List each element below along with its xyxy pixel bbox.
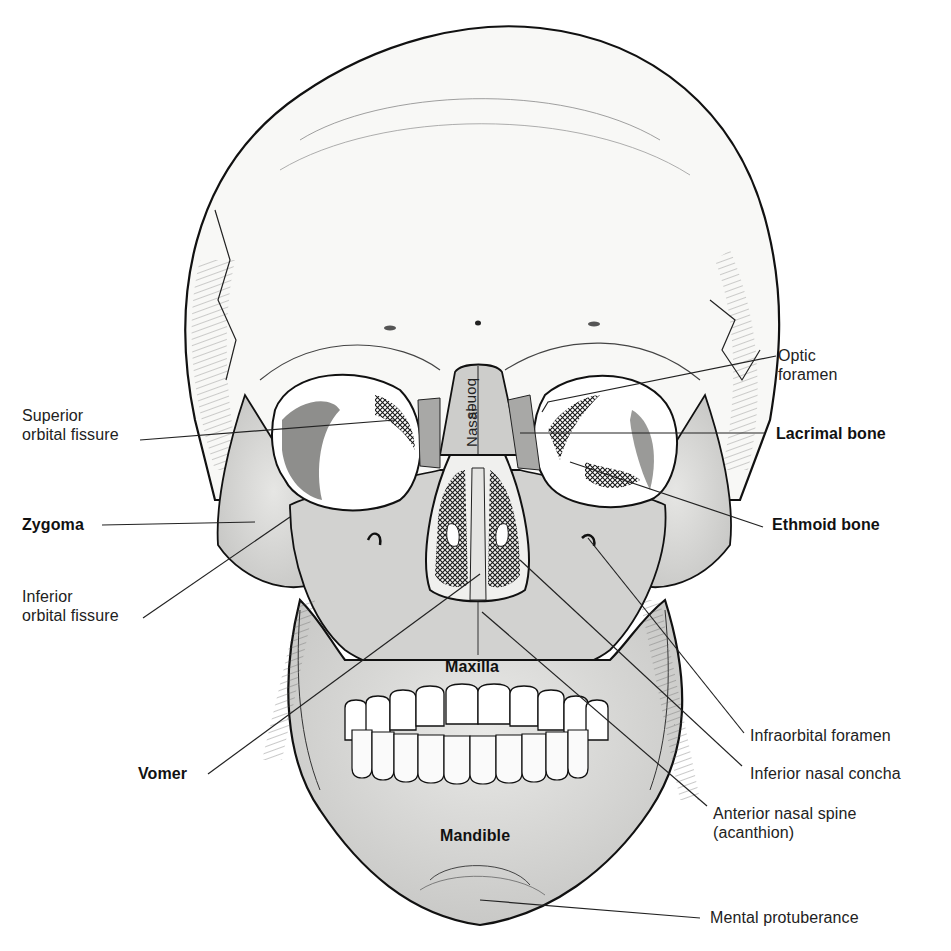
label-maxilla: Maxilla (445, 657, 499, 676)
label-anterior-nasal-spine: Anterior nasal spine (acanthion) (713, 804, 856, 842)
label-bones: bones (464, 378, 483, 419)
label-optic-foramen: Optic foramen (778, 346, 837, 384)
label-lacrimal-bone: Lacrimal bone (776, 424, 886, 443)
label-zygoma: Zygoma (22, 515, 84, 534)
label-superior-orbital-fissure: Superior orbital fissure (22, 406, 119, 444)
label-ethmoid-bone: Ethmoid bone (772, 515, 880, 534)
label-inferior-orbital-fissure: Inferior orbital fissure (22, 587, 119, 625)
label-infraorbital-foramen: Infraorbital foramen (750, 726, 891, 745)
label-mental-protuberance: Mental protuberance (710, 908, 859, 927)
label-vomer: Vomer (138, 764, 187, 783)
label-mandible: Mandible (440, 826, 510, 845)
label-inferior-nasal-concha: Inferior nasal concha (750, 764, 901, 783)
skull-diagram: Optic foramenSuperior orbital fissureLac… (0, 0, 951, 951)
